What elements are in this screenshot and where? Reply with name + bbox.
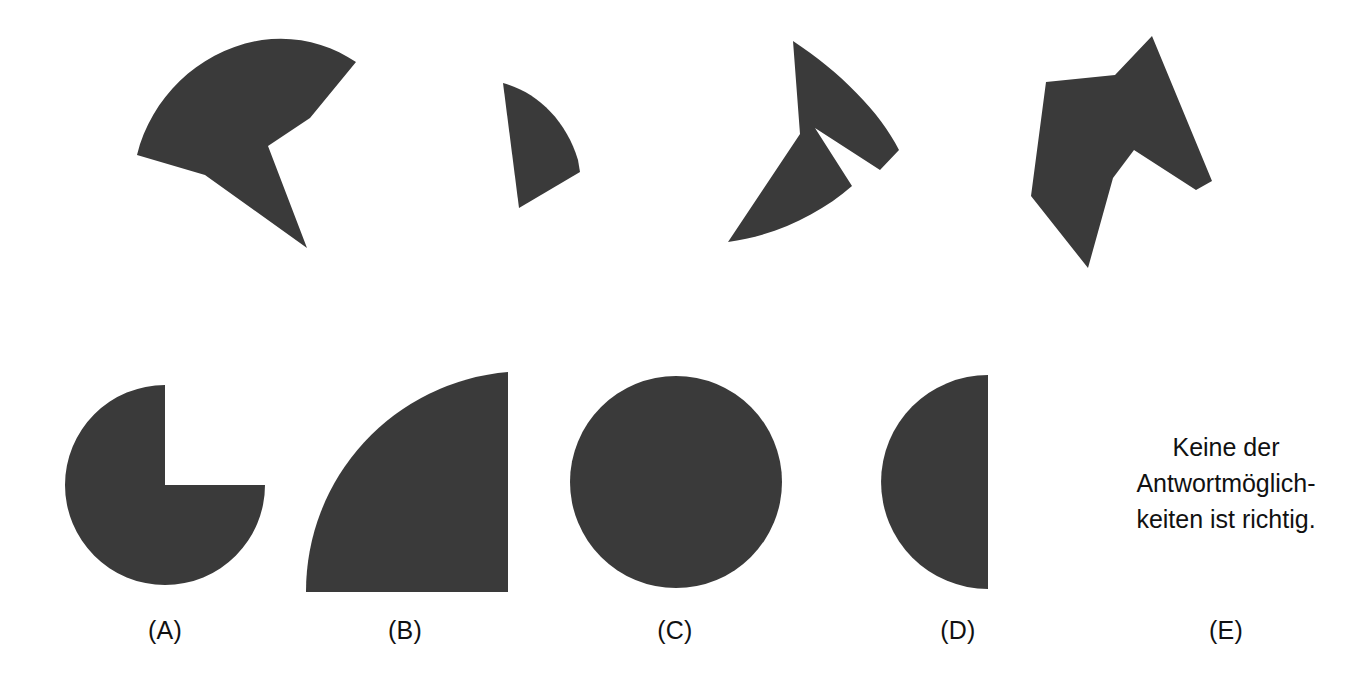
option-label-d[interactable]: (D) <box>898 614 1018 646</box>
option-label-b[interactable]: (B) <box>345 614 465 646</box>
option-b-shape-quarter-disc[interactable] <box>306 372 508 592</box>
option-label-e[interactable]: (E) <box>1166 614 1286 646</box>
option-a-shape-circle-with-quarter-removed[interactable] <box>65 385 265 585</box>
none-text-line-3: keiten ist richtig. <box>1114 501 1338 537</box>
option-label-a[interactable]: (A) <box>105 614 225 646</box>
none-text-line-2: Antwortmöglich- <box>1114 465 1338 501</box>
exercise-page: Keine der Antwortmöglich- keiten ist ric… <box>0 0 1351 693</box>
option-c-shape-full-circle[interactable] <box>570 376 782 588</box>
options-layer <box>0 0 1351 693</box>
option-label-c[interactable]: (C) <box>615 614 735 646</box>
option-d-shape-half-disc-left[interactable] <box>881 375 988 589</box>
option-labels-row: (A) (B) (C) (D) (E) <box>0 614 1351 654</box>
none-text-line-1: Keine der <box>1114 429 1338 465</box>
option-e-none-of-the-above-text[interactable]: Keine der Antwortmöglich- keiten ist ric… <box>1114 429 1338 537</box>
